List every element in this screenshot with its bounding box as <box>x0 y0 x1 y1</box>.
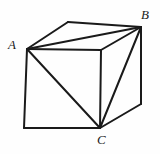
geometry-figure: A B C <box>0 0 160 154</box>
edge-front-face-left <box>24 49 27 128</box>
edge-front-face-right <box>100 50 101 128</box>
edge-front-face-top <box>27 49 101 50</box>
inscribed-triangle <box>27 27 141 128</box>
cube-diagram <box>0 0 160 154</box>
diagonal-bc-icon <box>100 27 141 128</box>
edge-right-face-bottom <box>100 104 141 128</box>
diagonal-ac-icon <box>27 49 100 128</box>
vertex-label-c: C <box>97 133 106 146</box>
vertex-label-b: B <box>141 8 149 21</box>
edge-top-face-back <box>68 22 141 27</box>
vertex-label-a: A <box>8 38 16 51</box>
